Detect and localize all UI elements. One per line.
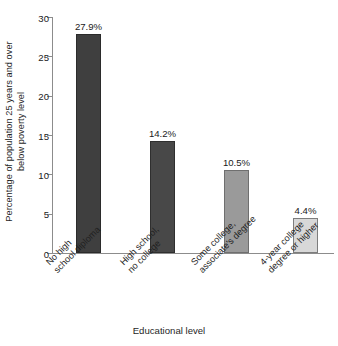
y-tick-label: 20	[38, 91, 49, 102]
y-tick: 30	[52, 17, 57, 18]
bar-value-label: 10.5%	[223, 157, 250, 168]
x-axis-title: Educational level	[0, 325, 338, 336]
y-tick-label: 10	[38, 169, 49, 180]
bar-value-label: 14.2%	[149, 128, 176, 139]
bar-chart: Percentage of population 25 years and ov…	[0, 0, 338, 346]
y-tick: 20	[52, 96, 57, 97]
y-tick-label: 25	[38, 51, 49, 62]
bar-value-label: 27.9%	[75, 21, 102, 32]
y-tick: 5	[52, 214, 57, 215]
y-tick: 25	[52, 56, 57, 57]
y-tick-label: 30	[38, 12, 49, 23]
y-tick-label: 15	[38, 130, 49, 141]
y-axis-title-line1: Percentage of population 25 years and ov…	[4, 41, 14, 221]
y-tick: 15	[52, 135, 57, 136]
y-tick-label: 5	[44, 209, 49, 220]
y-axis-title: Percentage of population 25 years and ov…	[0, 0, 30, 262]
y-axis-title-line2: below poverty level	[15, 41, 27, 221]
y-tick: 10	[52, 174, 57, 175]
plot-area: 051015202530 27.9%14.2%10.5%4.4%	[52, 17, 334, 253]
